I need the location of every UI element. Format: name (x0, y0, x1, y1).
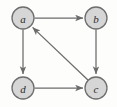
node-b[interactable]: b (85, 7, 107, 29)
node-d[interactable]: d (12, 77, 34, 99)
node-c[interactable]: c (85, 77, 107, 99)
edge-c-to-a (33, 27, 89, 80)
node-c-circle[interactable] (85, 77, 107, 99)
edge-layer (23, 18, 96, 88)
directed-graph-figure: a b d c (0, 0, 117, 107)
graph-canvas: a b d c (0, 0, 117, 107)
node-a[interactable]: a (12, 7, 34, 29)
node-b-circle[interactable] (85, 7, 107, 29)
node-d-circle[interactable] (12, 77, 34, 99)
node-a-circle[interactable] (12, 7, 34, 29)
